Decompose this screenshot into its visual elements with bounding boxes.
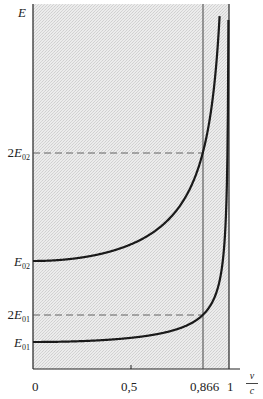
x-tick-0: 0 xyxy=(32,380,39,393)
x-tick-1: 1 xyxy=(227,380,234,393)
y-tick-E01: E01 xyxy=(0,336,30,352)
y-tick-E02: E02 xyxy=(0,255,30,271)
y-tick-2E01: 2E01 xyxy=(0,308,30,324)
y-tick-2E02: 2E02 xyxy=(0,146,30,162)
x-axis-label: v c xyxy=(246,371,258,396)
x-tick-0-5-label: 0,5 xyxy=(121,380,137,393)
y-axis-label: E xyxy=(18,6,26,19)
x-tick-0-866: 0,866 xyxy=(190,380,219,393)
chart-canvas xyxy=(0,0,263,399)
plot-area xyxy=(33,4,229,369)
